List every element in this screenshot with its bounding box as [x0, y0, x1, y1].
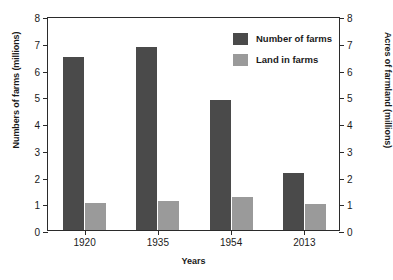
tick-mark	[43, 232, 48, 233]
tick-mark	[231, 230, 232, 235]
legend-label-land-in-farms: Land in farms	[256, 54, 318, 65]
bar-1954-land-in-farms	[232, 197, 253, 230]
y-tick-label-left: 1	[34, 200, 40, 211]
y-tick-label-right: 2	[347, 173, 353, 184]
legend-swatch-land-in-farms	[233, 54, 248, 66]
bar-1920-number-of-farms	[63, 57, 84, 230]
tick-mark	[304, 230, 305, 235]
bar-1920-land-in-farms	[85, 203, 106, 230]
y-tick-label-left: 2	[34, 173, 40, 184]
y-tick-label-left: 5	[34, 93, 40, 104]
y-tick-label-right: 3	[347, 146, 353, 157]
tick-mark	[339, 232, 344, 233]
y-axis-title-right: Acres of farmland (millions)	[383, 0, 393, 190]
y-axis-title-left: Numbers of farms (millions)	[11, 0, 21, 190]
y-tick-label-right: 1	[347, 200, 353, 211]
tick-mark	[339, 152, 344, 153]
tick-mark	[339, 205, 344, 206]
legend-item: Land in farms	[233, 51, 332, 68]
plot-area: 012345678 012345678 1920193519542013 Num…	[47, 17, 340, 231]
y-tick-label-left: 7	[34, 39, 40, 50]
tick-mark	[339, 179, 344, 180]
y-tick-label-left: 6	[34, 66, 40, 77]
y-tick-label-left: 3	[34, 146, 40, 157]
y-tick-label-right: 5	[347, 93, 353, 104]
y-tick-label-right: 8	[347, 13, 353, 24]
tick-mark	[339, 72, 344, 73]
bar-1954-number-of-farms	[210, 100, 231, 230]
legend-label-number-of-farms: Number of farms	[256, 33, 332, 44]
y-tick-label-right: 7	[347, 39, 353, 50]
y-tick-label-left: 8	[34, 13, 40, 24]
bar-1935-number-of-farms	[136, 47, 157, 230]
y-tick-label-right: 4	[347, 120, 353, 131]
x-tick-label-1954: 1954	[220, 237, 242, 248]
x-axis-title: Years	[47, 256, 340, 266]
bar-2013-land-in-farms	[305, 204, 326, 230]
y-tick-label-left: 0	[34, 227, 40, 238]
x-tick-label-2013: 2013	[293, 237, 315, 248]
x-tick-label-1935: 1935	[147, 237, 169, 248]
chart-legend: Number of farms Land in farms	[233, 30, 332, 72]
y-tick-label-right: 6	[347, 66, 353, 77]
bar-1935-land-in-farms	[158, 201, 179, 230]
tick-mark	[339, 98, 344, 99]
bar-2013-number-of-farms	[283, 173, 304, 231]
tick-mark	[85, 230, 86, 235]
legend-swatch-number-of-farms	[233, 33, 248, 45]
tick-mark	[339, 125, 344, 126]
tick-mark	[339, 45, 344, 46]
y-tick-label-right: 0	[347, 227, 353, 238]
tick-mark	[158, 230, 159, 235]
legend-item: Number of farms	[233, 30, 332, 47]
y-tick-label-left: 4	[34, 120, 40, 131]
tick-mark	[339, 18, 344, 19]
x-tick-label-1920: 1920	[74, 237, 96, 248]
